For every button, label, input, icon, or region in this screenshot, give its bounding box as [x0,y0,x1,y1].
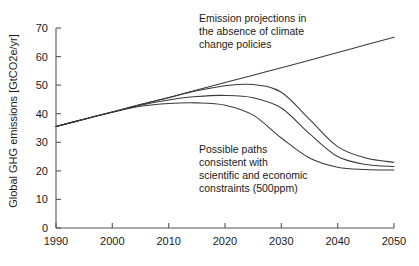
baseline-annotation-line-3: change policies [199,38,271,50]
y-tick-label-20: 20 [36,165,48,177]
mitigation-annotation: Possible paths consistent with scientifi… [199,143,308,194]
x-tick-label-2010: 2010 [156,235,180,247]
x-tick-label-1990: 1990 [44,235,68,247]
y-axis-title: Global GHG emissions [GtCO2e/yr] [7,34,19,208]
y-tick-label-60: 60 [36,51,48,63]
mitigation-annotation-line-1: Possible paths [199,143,267,155]
baseline-annotation: Emission projections in the absence of c… [199,12,307,50]
x-tick-label-2020: 2020 [213,235,237,247]
y-tick-label-70: 70 [36,22,48,34]
x-tick-label-2030: 2030 [269,235,293,247]
figure-container: Global GHG emissions [GtCO2e/yr] 0 10 20… [0,0,419,266]
emissions-line-chart: Global GHG emissions [GtCO2e/yr] 0 10 20… [0,0,419,266]
x-tick-label-2050: 2050 [382,235,406,247]
baseline-annotation-line-2: the absence of climate [199,25,304,37]
mitigation-annotation-line-3: scientific and economic [199,169,308,181]
y-tick-label-0: 0 [42,222,48,234]
y-tick-label-30: 30 [36,136,48,148]
y-tick-label-50: 50 [36,79,48,91]
x-tick-label-2040: 2040 [325,235,349,247]
y-tick-label-40: 40 [36,108,48,120]
mitigation-annotation-line-4: constraints (500ppm) [199,182,298,194]
y-tick-label-10: 10 [36,193,48,205]
x-tick-label-2000: 2000 [100,235,124,247]
mitigation-annotation-line-2: consistent with [199,156,268,168]
baseline-annotation-line-1: Emission projections in [199,12,307,24]
